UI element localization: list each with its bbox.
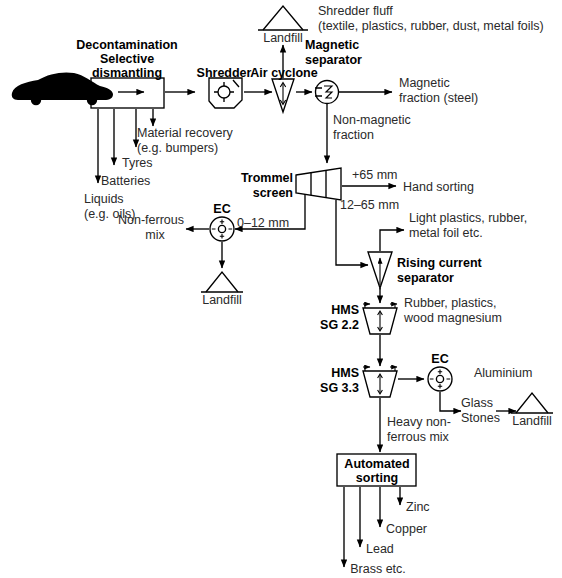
non-ferrous-line1: Non-ferrous	[118, 213, 184, 228]
landfill-mid-shape	[201, 272, 243, 292]
magnetic-separator-shape	[315, 81, 339, 104]
shredder-fluff-line2: (textile, plastics, rubber, dust, metal …	[318, 19, 544, 34]
magnetic-fraction-line1: Magnetic	[399, 76, 450, 91]
copper-label: Copper	[386, 522, 427, 537]
heavy-non-ferrous-line2: ferrous mix	[387, 430, 449, 445]
dismantling-label-line1: Decontamination	[76, 38, 177, 53]
process-flow-diagram	[0, 0, 562, 578]
magnetic-separator-label-line1: Magnetic	[305, 38, 359, 53]
air-cyclone-label: Air cyclone	[250, 66, 317, 81]
rising-current-shape	[368, 252, 392, 288]
trommel-label-line2: screen	[253, 186, 293, 201]
size-0-12-label: 0–12 mm	[237, 216, 289, 231]
zinc-label: Zinc	[406, 500, 430, 515]
glass-line1: Glass	[461, 396, 493, 411]
shredder-fluff-line1: Shredder fluff	[318, 4, 393, 19]
ec-right-label: EC	[431, 352, 448, 367]
ec-left-label: EC	[213, 202, 230, 217]
liquids-line1: Liquids	[84, 192, 124, 207]
rubber-plastics-line1: Rubber, plastics,	[404, 296, 496, 311]
material-recovery-line2: (e.g. bumpers)	[137, 141, 218, 156]
lead-label: Lead	[366, 542, 394, 557]
arrow-rising-current-to-light	[380, 230, 404, 251]
air-cyclone-shape	[272, 79, 294, 112]
landfill-top-label: Landfill	[263, 31, 303, 46]
dismantling-label-line3: dismantling	[92, 66, 162, 81]
hms-33-label-line2: SG 3.3	[320, 381, 359, 396]
size-plus65-label: +65 mm	[352, 168, 398, 183]
rising-current-label-line2: separator	[397, 271, 454, 286]
automated-sorting-line2: sorting	[356, 471, 398, 486]
size-12-65-label: 12–65 mm	[340, 198, 399, 213]
non-magnetic-line1: Non-magnetic	[333, 113, 411, 128]
rising-current-label-line1: Rising current	[397, 256, 482, 271]
landfill-top-shape	[258, 6, 308, 30]
hand-sorting-label: Hand sorting	[403, 180, 474, 195]
non-ferrous-line2: mix	[145, 228, 164, 243]
ec-right-shape	[428, 367, 452, 391]
hms-22-label-line1: HMS	[331, 303, 359, 318]
magnetic-fraction-line2: fraction (steel)	[399, 91, 478, 106]
heavy-non-ferrous-line1: Heavy non-	[387, 415, 451, 430]
non-magnetic-line2: fraction	[333, 128, 374, 143]
hms-22-label-line2: SG 2.2	[320, 318, 359, 333]
hms-22-shape	[363, 304, 397, 334]
material-recovery-line1: Material recovery	[137, 126, 233, 141]
automated-sorting-line1: Automated	[344, 457, 409, 472]
trommel-screen-shape	[296, 168, 341, 200]
tyres-label: Tyres	[122, 156, 153, 171]
arrow-ec-right-to-glass	[440, 392, 461, 411]
shredder-label: Shredder	[197, 66, 252, 81]
light-plastics-line1: Light plastics, rubber,	[409, 211, 527, 226]
shredder-shape	[209, 78, 242, 108]
ec-left-shape	[210, 217, 234, 241]
rubber-plastics-line2: wood magnesium	[404, 311, 502, 326]
hms-33-label-line1: HMS	[331, 366, 359, 381]
dismantling-label-line2: Selective	[100, 52, 154, 67]
trommel-label-line1: Trommel	[241, 171, 293, 186]
glass-line2: Stones	[461, 411, 500, 426]
landfill-right-label: Landfill	[512, 414, 552, 429]
light-plastics-line2: metal foil etc.	[409, 226, 483, 241]
brass-label: Brass etc.	[350, 562, 406, 577]
landfill-mid-label: Landfill	[202, 293, 242, 308]
landfill-right-shape	[511, 393, 553, 413]
hms-33-shape	[363, 367, 397, 397]
aluminium-label: Aluminium	[474, 366, 532, 381]
batteries-label: Batteries	[101, 174, 150, 189]
